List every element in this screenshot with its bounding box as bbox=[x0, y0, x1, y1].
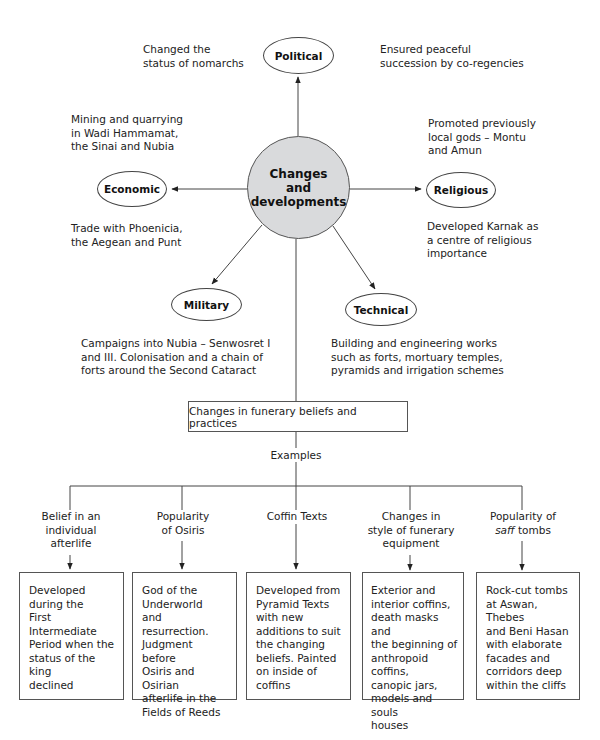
category-label-belief: Belief in an individual afterlife bbox=[24, 510, 118, 551]
node-technical: Technical bbox=[345, 293, 417, 326]
note-technical: Building and engineering works such as f… bbox=[331, 337, 504, 378]
detail-box-saff-tombs: Rock-cut tombs at Aswan, Thebes and Beni… bbox=[476, 572, 580, 700]
note-political-left: Changed the status of nomarchs bbox=[143, 43, 244, 70]
node-military-label: Military bbox=[184, 299, 229, 311]
node-religious-label: Religious bbox=[434, 184, 488, 196]
arrow-technical bbox=[333, 226, 375, 289]
node-political-label: Political bbox=[275, 50, 323, 62]
examples-label: Examples bbox=[266, 449, 326, 461]
note-political-right: Ensured peaceful succession by co-regenc… bbox=[380, 43, 524, 70]
category-label-osiris: Popularity of Osiris bbox=[140, 510, 226, 537]
node-political: Political bbox=[263, 37, 334, 74]
note-economic-top: Mining and quarrying in Wadi Hammamat, t… bbox=[71, 113, 183, 154]
funerary-box: Changes in funerary beliefs and practice… bbox=[188, 401, 408, 432]
note-military: Campaigns into Nubia – Senwosret I and I… bbox=[81, 337, 270, 378]
note-economic-bottom: Trade with Phoenicia, the Aegean and Pun… bbox=[71, 222, 183, 249]
note-religious-bottom: Developed Karnak as a centre of religiou… bbox=[427, 220, 538, 261]
node-economic-label: Economic bbox=[104, 183, 160, 195]
node-technical-label: Technical bbox=[354, 304, 409, 316]
center-node: Changes and developments bbox=[247, 136, 350, 239]
saff-italic: saff bbox=[495, 524, 514, 536]
category-label-coffin-texts: Coffin Texts bbox=[252, 510, 342, 524]
node-economic: Economic bbox=[97, 171, 167, 207]
category-label-funerary-equipment: Changes in style of funerary equipment bbox=[356, 510, 466, 551]
node-military: Military bbox=[171, 288, 242, 321]
detail-box-coffin-texts: Developed from Pyramid Texts with new ad… bbox=[246, 572, 351, 700]
detail-box-osiris: God of the Underworld and resurrection. … bbox=[132, 572, 237, 700]
category-label-saff-tombs: Popularity of saff tombs bbox=[474, 510, 572, 537]
funerary-title: Changes in funerary beliefs and practice… bbox=[189, 405, 407, 429]
arrow-military bbox=[212, 225, 262, 284]
node-religious: Religious bbox=[426, 172, 496, 208]
detail-box-funerary-equipment: Exterior and interior coffins, death mas… bbox=[362, 572, 464, 700]
note-religious-top: Promoted previously local gods – Montu a… bbox=[428, 117, 536, 158]
detail-box-belief: Developed during the First Intermediate … bbox=[19, 572, 124, 700]
